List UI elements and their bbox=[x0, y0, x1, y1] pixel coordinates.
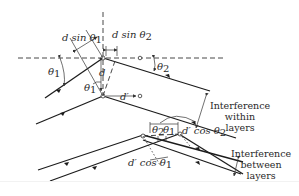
label-d: d bbox=[99, 67, 105, 78]
caption-within-line-1: Interference bbox=[210, 100, 271, 111]
caption-between-line-2: between bbox=[240, 159, 281, 170]
label-theta2-right: θ2 bbox=[157, 61, 169, 74]
diffraction-diagram: d sin θ1 d sin θ2 θ1 θ2 d θ1 d′ θ2 θ1 d′… bbox=[0, 0, 299, 196]
label-theta1-inner: θ1 bbox=[84, 82, 96, 95]
label-theta1-left: θ1 bbox=[48, 66, 60, 79]
bottom-divider bbox=[0, 181, 299, 182]
between-layers-arrow bbox=[234, 159, 238, 176]
caption-within-line-2: within bbox=[225, 111, 255, 122]
caption-between-line-1: Interference bbox=[231, 148, 292, 159]
d-prime-endpoint-icon bbox=[138, 94, 142, 98]
theta2-arc bbox=[154, 58, 155, 71]
label-d-sin-theta2: d sin θ2 bbox=[112, 29, 152, 42]
label-d-sin-theta1: d sin θ1 bbox=[62, 32, 102, 45]
ray-arrow-icon bbox=[195, 161, 200, 165]
label-d-prime-cos-theta1: d′ cos θ1 bbox=[128, 157, 172, 170]
label-d-prime: d′ bbox=[120, 91, 129, 102]
diagram-svg: d sin θ1 d sin θ2 θ1 θ2 d θ1 d′ θ2 θ1 d′… bbox=[0, 0, 299, 196]
label-d-prime-cos-theta2: d′ cos θ2 bbox=[182, 125, 226, 138]
label-theta1-lower: θ1 bbox=[163, 124, 175, 137]
reference-point-icon bbox=[138, 56, 142, 60]
caption-between-line-3: layers bbox=[246, 170, 275, 181]
within-layers-arrow bbox=[196, 96, 206, 128]
ray-arrow-icon bbox=[92, 166, 97, 170]
incident-ray-2 bbox=[36, 96, 103, 124]
ray-arrow-icon bbox=[64, 162, 69, 166]
theta1-arc bbox=[60, 58, 65, 86]
caption-within-line-3: layers bbox=[225, 122, 254, 133]
